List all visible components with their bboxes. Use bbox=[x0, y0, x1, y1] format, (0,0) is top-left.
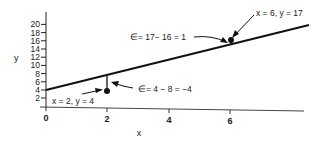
x-tick-label: 2 bbox=[104, 114, 109, 124]
arrowhead-icon bbox=[95, 88, 103, 93]
x-tick-label: 0 bbox=[43, 113, 48, 123]
annotation-point-6-17: x = 6, y = 17 bbox=[256, 8, 303, 18]
y-tick-label: 20 bbox=[31, 19, 41, 29]
x-tick-label: 6 bbox=[227, 116, 232, 126]
y-tick-labels: 2 4 6 8 10 12 14 16 18 20 bbox=[31, 19, 41, 103]
plot-canvas: 2 4 6 8 10 12 14 16 18 20 0 2 4 6 y x bbox=[0, 0, 316, 141]
data-point bbox=[228, 37, 234, 43]
regression-residual-diagram: 2 4 6 8 10 12 14 16 18 20 0 2 4 6 y x bbox=[0, 0, 316, 141]
x-tick-label: 4 bbox=[166, 115, 171, 125]
x-axis bbox=[40, 107, 304, 111]
data-point bbox=[104, 88, 110, 94]
annotation-residual-1: ∈= 17− 16 = 1 bbox=[130, 32, 186, 42]
x-tick-labels: 0 2 4 6 bbox=[43, 113, 232, 126]
y-ticks bbox=[41, 24, 46, 98]
x-axis-label: x bbox=[137, 128, 142, 138]
annotation-arrows bbox=[82, 15, 254, 94]
y-axis-label: y bbox=[14, 53, 19, 63]
annotation-residual-neg4: ∈= 4 − 8 = −4 bbox=[138, 84, 192, 94]
arrowhead-icon bbox=[111, 81, 119, 87]
annotation-point-2-4: x = 2, y = 4 bbox=[52, 96, 94, 106]
